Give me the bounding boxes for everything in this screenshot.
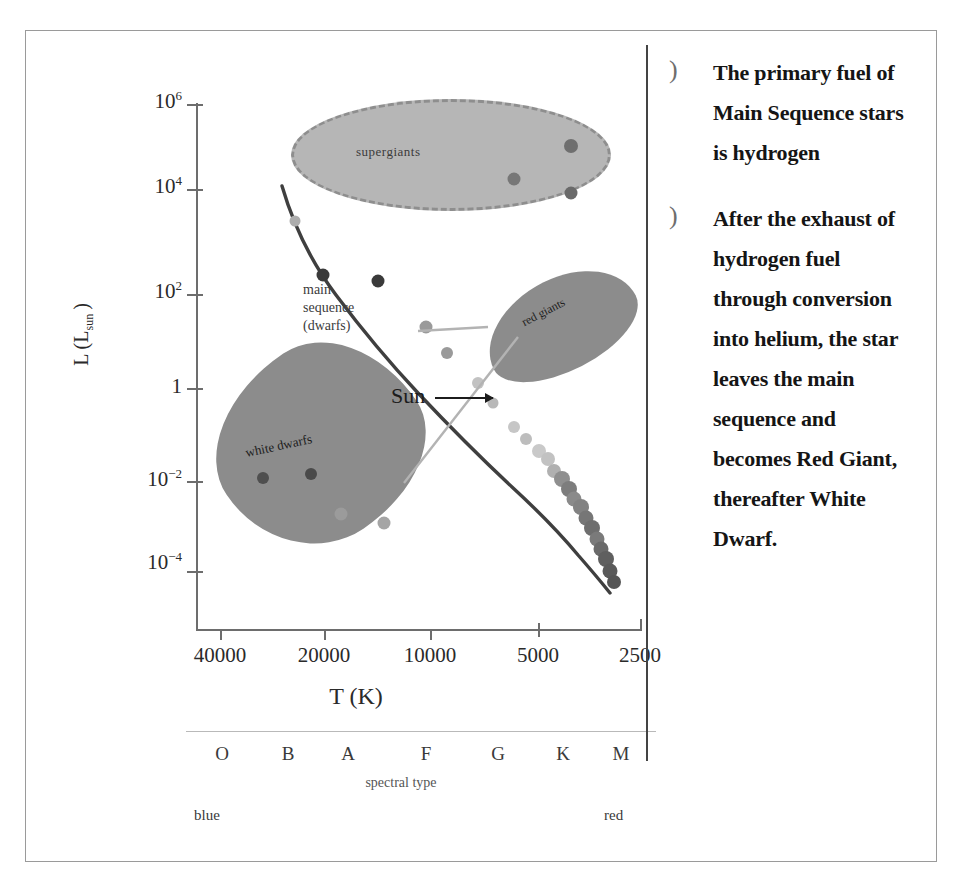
blue-end-label: blue	[194, 807, 220, 824]
bullet-text: After the exhaust of hydrogen fuel throu…	[713, 199, 919, 559]
data-point	[335, 508, 348, 521]
y-axis-title: L (Lsun )	[70, 265, 97, 405]
y-axis-tick	[187, 104, 203, 106]
main-sequence-plot	[26, 31, 646, 831]
slide-frame: supergiants red giants white dwarfs	[25, 30, 937, 862]
y-axis-tick	[187, 571, 203, 573]
main-sequence-label-line2: sequence	[303, 299, 354, 317]
y-axis-line	[196, 103, 198, 631]
data-point	[290, 216, 301, 227]
bullet-marker-icon: )	[669, 199, 713, 233]
data-point	[607, 575, 621, 589]
spectral-type-caption: spectral type	[321, 775, 481, 791]
main-sequence-label-line1: main	[303, 281, 354, 299]
x-axis-label-20000: 20000	[276, 643, 372, 668]
spectral-type-A: A	[328, 743, 368, 765]
data-point	[378, 517, 391, 530]
spectral-type-M: M	[601, 743, 641, 765]
y-axis-tick	[187, 388, 203, 390]
data-point	[565, 187, 578, 200]
x-axis-endcap	[196, 619, 198, 631]
data-point	[257, 472, 269, 484]
bullet-text: The primary fuel of Main Sequence stars …	[713, 53, 919, 173]
spectral-type-F: F	[406, 743, 446, 765]
bullet-marker-icon: )	[669, 53, 713, 87]
spectral-type-G: G	[478, 743, 518, 765]
bullet-item: ) After the exhaust of hydrogen fuel thr…	[669, 199, 919, 559]
y-axis-tick	[187, 481, 203, 483]
red-end-label: red	[604, 807, 623, 824]
y-axis-label-1e-4: 10−4	[147, 549, 182, 575]
data-point	[372, 275, 385, 288]
x-axis-label-10000: 10000	[382, 643, 478, 668]
data-point	[541, 452, 555, 466]
main-sequence-curve	[282, 186, 610, 593]
text-panel: ) The primary fuel of Main Sequence star…	[669, 53, 919, 763]
sun-label: Sun	[391, 383, 425, 409]
sun-arrow-icon	[435, 397, 493, 399]
y-axis-label-1e-2: 10−2	[147, 466, 182, 492]
white-dwarfs-leader-line	[404, 337, 518, 483]
x-axis-title: T (K)	[281, 683, 431, 710]
y-axis-label-1e4: 104	[155, 173, 183, 199]
data-point	[441, 347, 453, 359]
x-axis-tick	[220, 629, 222, 640]
x-axis-line	[196, 629, 642, 631]
spectral-type-B: B	[268, 743, 308, 765]
main-sequence-label: main sequence (dwarfs)	[303, 281, 354, 335]
data-point	[508, 173, 521, 186]
y-axis-tick	[187, 294, 203, 296]
data-point	[508, 421, 520, 433]
x-axis-tick	[324, 629, 326, 640]
hr-diagram-chart: supergiants red giants white dwarfs	[26, 31, 646, 831]
y-axis-tick	[187, 189, 203, 191]
y-axis-label-1e6: 106	[155, 88, 183, 114]
y-axis-label-1: 1	[172, 374, 183, 399]
data-point	[520, 433, 532, 445]
x-axis-label-5000: 5000	[490, 643, 586, 668]
bullet-item: ) The primary fuel of Main Sequence star…	[669, 53, 919, 173]
data-point	[564, 139, 578, 153]
x-axis-tick	[538, 623, 540, 637]
main-sequence-label-line3: (dwarfs)	[303, 317, 354, 335]
spectral-type-K: K	[543, 743, 583, 765]
spectral-type-O: O	[202, 743, 242, 765]
spectral-type-rule	[186, 731, 656, 732]
content-divider	[646, 45, 648, 761]
x-axis-endcap	[640, 619, 642, 631]
x-axis-tick	[430, 629, 432, 640]
data-point	[317, 269, 330, 282]
x-axis-label-40000: 40000	[172, 643, 268, 668]
data-point	[305, 468, 317, 480]
y-axis-label-1e2: 102	[155, 278, 183, 304]
